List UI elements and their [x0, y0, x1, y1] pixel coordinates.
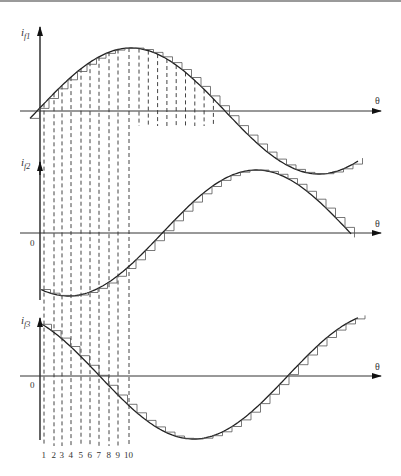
step-label: 7 [97, 450, 102, 460]
step-label: 6 [88, 450, 93, 460]
if3-y-label: if3 [21, 314, 30, 329]
if1-y-label: if1 [21, 26, 30, 41]
if3-curve [42, 318, 358, 439]
if2-theta-label: θ [375, 218, 380, 229]
step-label: 3 [60, 450, 65, 460]
step-labels: 12345678910 [42, 450, 134, 460]
step-label: 10 [124, 450, 134, 460]
panel-if3: if3 θ 0 [20, 314, 381, 440]
if2-y-label: if2 [21, 156, 30, 171]
step-label: 2 [52, 450, 57, 460]
step-label: 4 [69, 450, 74, 460]
step-label: 5 [79, 450, 84, 460]
panel-if2: if2 θ 0 [20, 156, 381, 300]
if1-theta-label: θ [375, 95, 380, 106]
if3-origin-label: 0 [30, 380, 35, 390]
step-label: 8 [107, 450, 112, 460]
panel-if1: if1 θ [20, 26, 381, 175]
step-label: 9 [116, 450, 121, 460]
if2-origin-label: 0 [30, 238, 35, 248]
step-label: 1 [42, 450, 47, 460]
step-dashed-lines [44, 48, 129, 446]
three-phase-current-diagram: if1 θ if2 θ 0 if3 θ 0 12345678910 [0, 0, 401, 476]
if3-theta-label: θ [375, 361, 380, 372]
